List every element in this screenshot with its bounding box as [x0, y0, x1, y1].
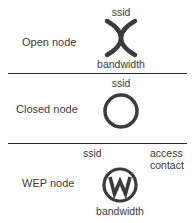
wep-node-contact-label: contact	[150, 159, 184, 171]
wep-node-bandwidth-label: bandwidth	[96, 205, 144, 217]
wep-node-access-label: access	[150, 147, 183, 159]
divider	[8, 73, 187, 74]
closed-node-ssid-label: ssid	[112, 77, 131, 89]
open-node-ssid-label: ssid	[112, 6, 131, 18]
open-node-x-icon	[104, 19, 138, 57]
open-node-bandwidth-label: bandwidth	[97, 58, 145, 70]
row-label-open-node: Open node	[22, 36, 76, 48]
wep-node-w-circle-icon	[101, 166, 139, 204]
row-label-closed-node: Closed node	[16, 103, 78, 115]
divider	[8, 143, 187, 144]
closed-node-circle-icon	[102, 92, 140, 130]
row-label-wep-node: WEP node	[22, 177, 74, 189]
wep-node-ssid-label: ssid	[83, 147, 102, 159]
